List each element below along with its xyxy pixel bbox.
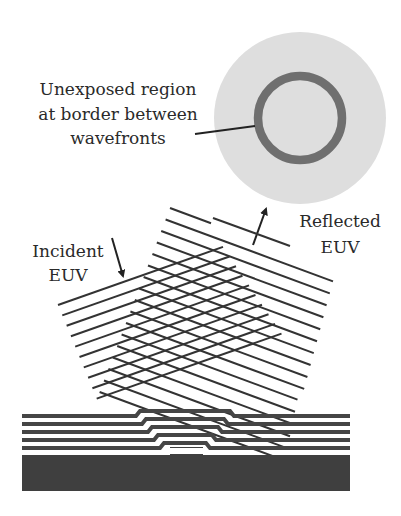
multilayer-layer (22, 435, 350, 440)
incident-label: Incident EUV (32, 241, 104, 285)
unexposed-label: Unexposed region at border between wavef… (38, 79, 198, 148)
multilayer-layer (22, 411, 350, 416)
reflected-label-line-2: EUV (320, 237, 360, 257)
diagram-canvas: Unexposed region at border between wavef… (0, 0, 401, 516)
unexposed-label-line-2: at border between (38, 104, 198, 124)
spot-disc (214, 32, 386, 204)
incident-wavefront-line (71, 276, 243, 336)
reflected-arrow-icon (253, 209, 266, 245)
incident-wavefronts (58, 247, 282, 399)
exposure-spot (214, 32, 386, 204)
incident-label-line-1: Incident (32, 241, 104, 261)
reflected-wavefront-line (117, 346, 295, 412)
defect-void (170, 448, 203, 454)
euv-defect-diagram: Unexposed region at border between wavef… (0, 0, 401, 516)
substrate (22, 455, 350, 491)
incident-arrow-icon (112, 238, 123, 276)
reflected-label-line-1: Reflected (299, 211, 381, 231)
unexposed-label-line-1: Unexposed region (40, 79, 197, 99)
reflected-label: Reflected EUV (299, 211, 381, 257)
reflected-wavefront-line (170, 208, 211, 223)
reflected-wavefront-line (148, 266, 320, 330)
incident-wavefront-line (75, 285, 249, 346)
unexposed-label-line-3: wavefronts (70, 128, 166, 148)
multilayer-layer (22, 427, 350, 432)
incident-label-line-2: EUV (48, 265, 88, 285)
multilayer-stack (22, 411, 350, 448)
reflected-wavefront-line (130, 312, 307, 378)
reflected-wavefront-line (139, 289, 314, 354)
incident-wavefront-line (92, 324, 275, 388)
reflected-wavefront-line (144, 277, 317, 341)
reflected-wavefront-line (122, 335, 298, 400)
